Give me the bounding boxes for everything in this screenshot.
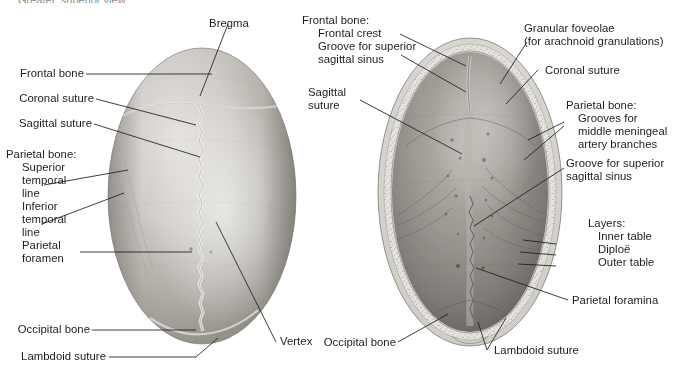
label-frontal-bone-heading-right: Frontal bone: <box>302 14 369 27</box>
leader-lambdoid-suture-left <box>109 338 218 357</box>
label-groove-superior-sagittal-sinus-top: Groove for superior sagittal sinus <box>318 40 416 66</box>
label-occipital-bone-right: Occipital bone <box>318 336 396 349</box>
label-lambdoid-suture-left: Lambdoid suture <box>0 350 106 363</box>
leader-inner-table <box>523 240 556 244</box>
leader-coronal-suture <box>96 99 196 125</box>
label-frontal-bone: Frontal bone <box>0 67 84 80</box>
left-skull-illustration <box>108 48 296 344</box>
leader-lines <box>42 24 568 357</box>
label-outer-table: Outer table <box>598 256 654 269</box>
label-granular-foveolae: Granular foveolae (for arachnoid granula… <box>524 22 664 48</box>
leader-middle-meningeal-grooves-2 <box>524 126 564 160</box>
label-grooves-middle-meningeal: Grooves for middle meningeal artery bran… <box>578 112 667 152</box>
label-inferior-temporal-line: Inferior temporal line <box>22 200 66 240</box>
label-lambdoid-suture-right: Lambdoid suture <box>494 344 579 357</box>
label-sagittal-suture-right: Sagittal suture <box>308 86 346 112</box>
leader-granular-foveolae <box>500 42 527 84</box>
label-occipital-bone-left: Occipital bone <box>0 323 90 336</box>
label-coronal-suture-right: Coronal suture <box>545 64 620 77</box>
anatomy-figure-skull-superior-and-calvaria: Greater, superior view <box>0 0 677 379</box>
label-parietal-foramen: Parietal foramen <box>22 239 64 265</box>
label-diploe: Diploë <box>598 243 630 256</box>
label-inner-table: Inner table <box>598 230 652 243</box>
leader-diploe <box>520 252 556 255</box>
leader-sagittal-suture <box>94 124 200 157</box>
leader-coronal-suture-right <box>506 70 538 104</box>
label-vertex: Vertex <box>280 335 312 348</box>
leader-middle-meningeal-grooves <box>528 122 564 140</box>
leader-vertex <box>216 222 276 342</box>
leader-bregma <box>200 24 228 96</box>
label-parietal-bone-heading-right: Parietal bone: <box>566 99 636 112</box>
leader-occipital-bone-right <box>398 314 448 342</box>
leader-sagittal-suture-right <box>360 100 462 154</box>
label-parietal-bone-heading: Parietal bone: <box>6 148 76 161</box>
label-sagittal-suture: Sagittal suture <box>0 117 92 130</box>
leader-groove-sss-right <box>474 168 564 226</box>
label-coronal-suture: Coronal suture <box>0 92 94 105</box>
label-layers-heading: Layers: <box>588 217 625 230</box>
leader-parietal-foramina <box>476 268 568 300</box>
leader-outer-table <box>518 264 556 266</box>
leader-lambdoid-suture-right-a <box>478 322 487 350</box>
label-parietal-foramina: Parietal foramina <box>572 294 658 307</box>
label-bregma: Bregma <box>196 17 262 30</box>
label-superior-temporal-line: Superior temporal line <box>22 161 66 201</box>
label-groove-superior-sagittal-sinus-right: Groove for superior sagittal sinus <box>566 157 664 183</box>
right-calvaria-illustration <box>378 38 562 346</box>
label-frontal-crest: Frontal crest <box>318 27 381 40</box>
clipped-title-text: Greater, superior view <box>18 0 318 3</box>
